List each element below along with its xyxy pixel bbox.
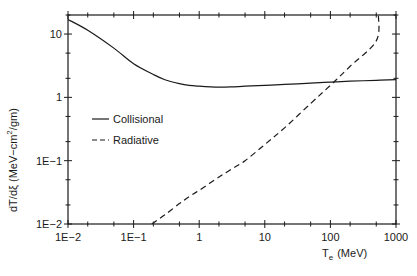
y-axis-label-main: dT/dξ (MeV−cm	[7, 135, 19, 212]
y-axis-label: dT/dξ (MeV−cm2/gm)	[5, 108, 19, 212]
x-axis-label: Te(MeV)	[322, 247, 367, 262]
x-tick-label: 100	[321, 231, 339, 243]
legend: Collisional Radiative	[92, 113, 163, 146]
x-tick-label: 1000	[384, 231, 408, 243]
x-tick-label: 1E−2	[55, 231, 81, 243]
x-axis-label-units: (MeV)	[337, 247, 367, 259]
x-axis-label-subscript: e	[329, 253, 334, 262]
x-tick-label: 1E−1	[121, 231, 147, 243]
series-line-collisional	[68, 19, 396, 87]
y-tick-label: 1	[56, 91, 62, 103]
series-line-radiative	[152, 15, 379, 224]
legend-label-radiative: Radiative	[113, 134, 159, 146]
x-axis-ticks: 1E−21E−11101001000	[55, 11, 408, 243]
x-tick-label: 1	[196, 231, 202, 243]
chart: 1E−21E−11101001000 1E−21E−1110 Collision…	[0, 0, 417, 276]
y-tick-label: 1E−2	[36, 218, 62, 230]
y-tick-label: 1E−1	[36, 155, 62, 167]
y-axis-label-tail: /gm)	[7, 108, 19, 130]
legend-label-collisional: Collisional	[113, 113, 163, 125]
y-tick-label: 10	[50, 28, 62, 40]
y-axis-ticks: 1E−21E−1110	[36, 15, 400, 230]
x-tick-label: 10	[259, 231, 271, 243]
